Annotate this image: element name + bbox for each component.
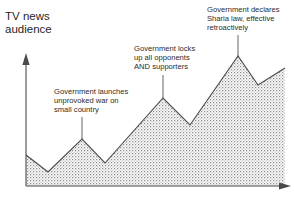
y-axis-arrowhead xyxy=(22,53,29,65)
annotation-label-locks-up-opponents: Government locks up all opponents AND su… xyxy=(134,44,195,72)
chart-figure: TV news audience Government launches unp… xyxy=(0,0,294,199)
annotation-label-unprovoked-war: Government launches unprovoked war on sm… xyxy=(54,87,128,115)
y-axis-title: TV news audience xyxy=(5,10,52,36)
area-fill xyxy=(26,56,285,186)
annotation-label-sharia-law: Government declares Sharia law, effectiv… xyxy=(207,5,280,33)
